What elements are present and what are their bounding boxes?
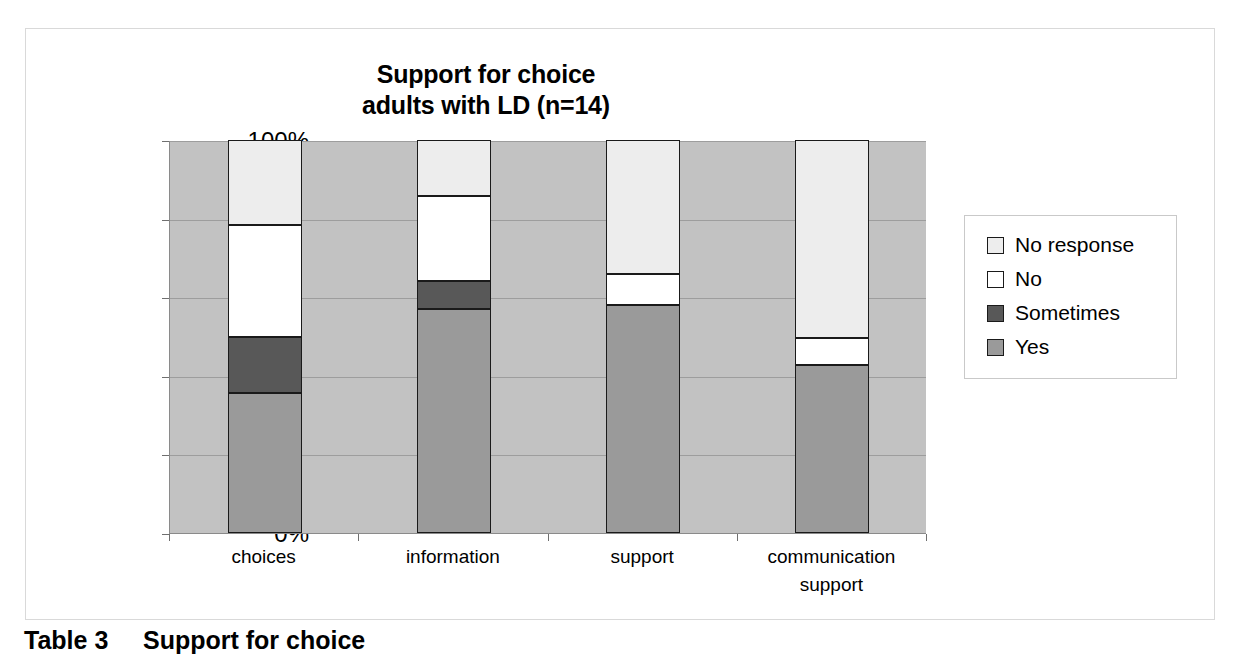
- bar-segment-yes: [228, 393, 302, 533]
- x-axis-tick-label-line: choices: [169, 543, 359, 571]
- legend-item-label: No response: [1015, 233, 1134, 257]
- x-axis-tick-label-line: communication: [736, 543, 926, 571]
- legend: No responseNoSometimesYes: [964, 215, 1177, 379]
- legend-item-no[interactable]: No: [965, 262, 1176, 296]
- chart-title-line-2: adults with LD (n=14): [26, 90, 946, 121]
- y-axis-tick-mark: [162, 220, 169, 221]
- legend-swatch-icon: [987, 237, 1004, 254]
- bar-communication-support: [795, 141, 869, 533]
- bar-segment-yes: [795, 365, 869, 533]
- bar-segment-sometimes: [417, 281, 491, 309]
- bar-information: [417, 141, 491, 533]
- legend-swatch-icon: [987, 305, 1004, 322]
- x-axis-tick-mark: [358, 534, 359, 541]
- x-axis-tick-label: support: [547, 543, 737, 571]
- chart-title-line-1: Support for choice: [26, 59, 946, 90]
- bar-choices: [228, 141, 302, 533]
- bar-segment-no: [228, 225, 302, 337]
- x-axis-tick-label-line: support: [736, 571, 926, 599]
- legend-item-label: Yes: [1015, 335, 1049, 359]
- legend-item-no-response[interactable]: No response: [965, 228, 1176, 262]
- figure-caption: Table 3 Support for choice: [24, 626, 365, 655]
- bar-segment-no: [606, 274, 680, 306]
- x-axis-tick-mark: [926, 534, 927, 541]
- y-axis-tick-mark: [162, 455, 169, 456]
- legend-item-label: Sometimes: [1015, 301, 1120, 325]
- bar-segment-no-response: [228, 140, 302, 224]
- x-axis-tick-mark: [737, 534, 738, 541]
- plot-area: [169, 141, 926, 534]
- x-axis-tick-mark: [169, 534, 170, 541]
- y-axis-tick-mark: [162, 534, 169, 535]
- x-axis-tick-label: information: [358, 543, 548, 571]
- legend-swatch-icon: [987, 339, 1004, 356]
- bar-segment-yes: [606, 305, 680, 533]
- bar-support: [606, 141, 680, 533]
- x-axis-tick-mark: [548, 534, 549, 541]
- legend-swatch-icon: [987, 271, 1004, 288]
- bar-segment-yes: [417, 309, 491, 533]
- x-axis-tick-label-line: support: [547, 543, 737, 571]
- x-axis-tick-label: communicationsupport: [736, 543, 926, 598]
- legend-item-sometimes[interactable]: Sometimes: [965, 296, 1176, 330]
- bar-segment-no: [417, 196, 491, 280]
- y-axis-tick-mark: [162, 377, 169, 378]
- y-axis-tick-mark: [162, 298, 169, 299]
- x-axis-tick-label: choices: [169, 543, 359, 571]
- x-axis-tick-label-line: information: [358, 543, 548, 571]
- chart-frame: Support for choice adults with LD (n=14)…: [25, 28, 1215, 620]
- legend-item-yes[interactable]: Yes: [965, 330, 1176, 364]
- legend-item-label: No: [1015, 267, 1042, 291]
- bar-segment-no: [795, 338, 869, 364]
- y-axis-tick-mark: [162, 141, 169, 142]
- bar-segment-no-response: [795, 140, 869, 338]
- chart-title: Support for choice adults with LD (n=14): [26, 59, 946, 120]
- bar-segment-no-response: [417, 140, 491, 196]
- bar-segment-no-response: [606, 140, 680, 274]
- bar-segment-sometimes: [228, 337, 302, 393]
